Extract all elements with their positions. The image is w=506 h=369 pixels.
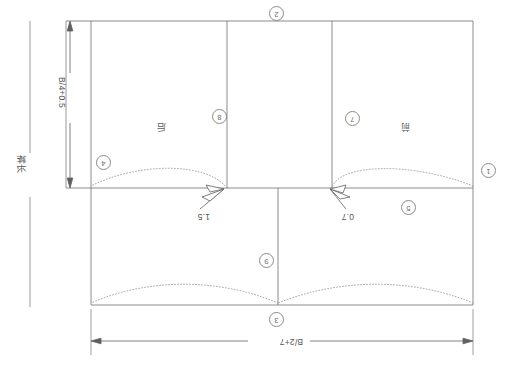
pattern-line-work <box>0 0 506 369</box>
dimension-notch-left: 0.7 <box>342 213 354 222</box>
dim-right-arrow-top <box>67 178 73 188</box>
balloon-7[interactable]: 7 <box>345 111 360 126</box>
balloon-6[interactable]: 9 <box>259 253 274 268</box>
dim-right-arrow-bottom <box>67 21 73 31</box>
piece-label-back: 后 <box>157 122 166 131</box>
dim-top-arrow-left <box>463 338 473 344</box>
balloon-3[interactable]: 3 <box>269 312 284 327</box>
dim-top-arrow-right <box>91 338 101 344</box>
balloon-1[interactable]: 1 <box>481 163 496 178</box>
piece-label-front: 前 <box>401 122 410 131</box>
balloon-5[interactable]: 5 <box>401 200 416 215</box>
drawing-canvas: B/2+7 0.7 1.5 前 后 B/4+0.5 裤长 1 2 3 4 5 9… <box>0 0 506 369</box>
balloon-4[interactable]: 4 <box>96 155 111 170</box>
rotated-drawing-group: B/2+7 0.7 1.5 前 后 B/4+0.5 裤长 1 2 3 4 5 9… <box>0 0 506 369</box>
dimension-notch-right: 1.5 <box>198 213 210 222</box>
balloon-8[interactable]: 8 <box>212 109 227 124</box>
lower-left-curve <box>332 169 473 188</box>
dimension-right-height: B/4+0.5 <box>58 77 67 108</box>
upper-left-curve <box>278 284 473 303</box>
balloon-2[interactable]: 2 <box>269 6 284 21</box>
upper-right-curve <box>91 284 278 303</box>
dimension-overall-length: 裤长 <box>16 155 25 173</box>
dimension-top-width: B/2+7 <box>280 338 303 347</box>
